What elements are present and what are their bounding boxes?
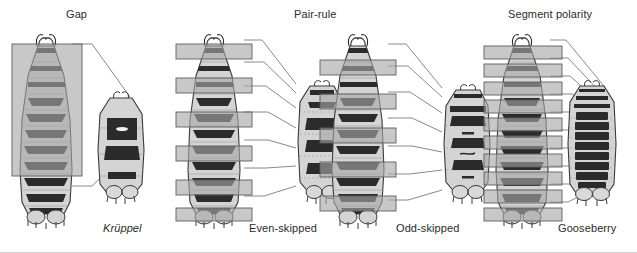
mutant-label-gooseberry: Gooseberry (558, 222, 616, 234)
group-title-pair-rule: Pair-rule (294, 8, 336, 20)
group-title-segment-polarity: Segment polarity (508, 8, 592, 20)
even-skipped-wildtype-larva (176, 30, 262, 230)
kruppel-mutant-larva (92, 88, 152, 210)
gooseberry-wildtype-larva (484, 30, 570, 230)
odd-skipped-wildtype-larva (320, 30, 406, 230)
mutant-label-odd-skipped: Odd-skipped (396, 222, 459, 234)
mutant-label-even-skipped: Even-skipped (249, 222, 317, 234)
gap-expression-domain (12, 44, 82, 176)
gap-wildtype-larva (8, 30, 94, 230)
group-title-gap: Gap (66, 8, 87, 20)
gooseberry-mutant-larva (560, 78, 624, 214)
figure-canvas: Gap Pair-rule Segment polarity (0, 0, 637, 253)
mutant-label-kruppel: Krüppel (103, 222, 142, 234)
